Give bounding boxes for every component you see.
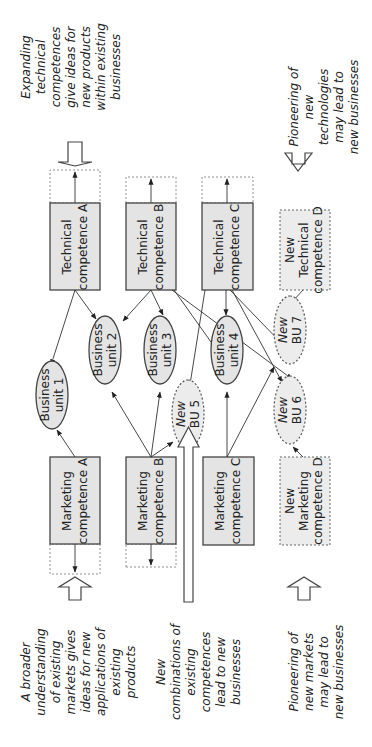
competence-business-diagram: Technical competence A Technical compete… bbox=[0, 0, 372, 747]
annotation-line: New bbox=[276, 397, 290, 423]
annotation-expanding-technical: Expanding technical competences give ide… bbox=[19, 23, 123, 111]
annotation-line: competence B bbox=[152, 458, 166, 544]
annotation-broader-understanding: A broader understanding of existing mark… bbox=[19, 626, 138, 716]
annotation-line: New bbox=[174, 401, 188, 427]
annotation-line: unit 3 bbox=[160, 333, 174, 368]
annotation-line: BU 7 bbox=[290, 316, 304, 344]
annotation-line: markets gives bbox=[64, 630, 78, 715]
new-technical-competence-d: New Technical competence D bbox=[280, 206, 330, 293]
marketing-competence-c: Marketing competence C bbox=[203, 457, 254, 545]
annotation-line: businesses bbox=[109, 34, 123, 100]
annotation-line: Pioneering of bbox=[287, 66, 301, 147]
annotation-line: new businesses bbox=[347, 60, 361, 155]
annotation-line: lead to new bbox=[214, 637, 228, 707]
annotation-line: give ideas for bbox=[64, 25, 78, 108]
annotation-line: New bbox=[276, 317, 290, 343]
annotation-line: Technical bbox=[297, 222, 311, 278]
annotation-line: applications of bbox=[94, 626, 108, 716]
annotation-line: competence D bbox=[311, 457, 325, 544]
annotation-line: Business bbox=[146, 324, 160, 377]
annotation-line: Technical bbox=[212, 219, 226, 275]
diagram-stage: Technical competence A Technical compete… bbox=[0, 0, 372, 747]
annotation-line: competence C bbox=[229, 458, 243, 545]
annotation-line: existing bbox=[109, 648, 123, 696]
annotation-line: ideas for new bbox=[79, 631, 93, 712]
business-unit-1: Business unit 1 bbox=[36, 361, 68, 429]
annotation-line: unit 1 bbox=[52, 378, 66, 413]
annotation-pioneering-markets: Pioneering of new markets may lead to ne… bbox=[287, 625, 346, 720]
annotation-line: Technical bbox=[136, 219, 150, 275]
broad-market-arrow bbox=[59, 577, 91, 600]
annotation-line: unit 4 bbox=[227, 333, 241, 368]
annotation-line: A broader bbox=[19, 641, 33, 702]
annotation-line: technical bbox=[34, 39, 48, 94]
annotation-line: Marketing bbox=[213, 471, 227, 531]
annotation-line: of existing bbox=[49, 640, 63, 703]
annotation-line: Marketing bbox=[136, 471, 150, 531]
business-unit-2: Business unit 2 bbox=[89, 316, 121, 384]
annotation-line: Marketing bbox=[297, 471, 311, 531]
technical-competence-a: Technical competence A bbox=[50, 170, 100, 290]
annotation-line: competence A bbox=[76, 203, 90, 290]
annotation-line: Marketing bbox=[60, 471, 74, 531]
annotation-line: BU 5 bbox=[188, 400, 202, 428]
annotation-line: unit 2 bbox=[105, 333, 119, 368]
annotation-line: new products bbox=[79, 26, 93, 107]
annotation-line: competence C bbox=[228, 204, 242, 291]
technical-competence-c: Technical competence C bbox=[202, 177, 253, 290]
annotation-line: Business bbox=[91, 324, 105, 377]
annotation-line: competence D bbox=[311, 206, 325, 293]
expand-tech-arrow bbox=[58, 142, 92, 166]
annotation-line: competences bbox=[199, 632, 213, 713]
annotation-line: Technical bbox=[60, 219, 74, 275]
annotation-line: Business bbox=[38, 369, 52, 422]
annotation-line: within existing bbox=[94, 23, 108, 111]
annotation-line: New bbox=[283, 488, 297, 514]
annotation-line: Pioneering of bbox=[287, 631, 301, 712]
annotation-line: competence B bbox=[152, 204, 166, 290]
annotation-line: Expanding bbox=[19, 35, 33, 99]
annotation-line: may lead to bbox=[332, 71, 346, 143]
annotation-line: new bbox=[302, 94, 316, 119]
annotation-line: new businesses bbox=[332, 625, 346, 720]
annotation-line: new markets bbox=[302, 633, 316, 711]
new-business-unit-7: New BU 7 bbox=[274, 296, 306, 364]
annotation-line: existing bbox=[184, 648, 198, 696]
annotation-pioneering-technologies: Pioneering of new technologies may lead … bbox=[287, 60, 361, 155]
annotation-line: competences bbox=[49, 27, 63, 108]
business-unit-3: Business unit 3 bbox=[144, 316, 176, 384]
annotation-line: Business bbox=[213, 324, 227, 377]
annotation-line: may lead to bbox=[317, 636, 331, 708]
annotation-line: combinations of bbox=[169, 622, 183, 720]
marketing-competence-a: Marketing competence A bbox=[50, 457, 100, 574]
marketing-competence-b: Marketing competence B bbox=[126, 457, 176, 567]
business-unit-4: Business unit 4 bbox=[211, 316, 243, 384]
new-marketing-competence-d: New Marketing competence D bbox=[280, 457, 330, 545]
new-business-unit-6: New BU 6 bbox=[274, 376, 306, 444]
annotation-line: New bbox=[154, 659, 168, 685]
pioneer-tech-arrow bbox=[285, 153, 312, 171]
annotation-line: technologies bbox=[317, 69, 331, 146]
combination-arrow bbox=[178, 427, 199, 602]
annotation-line: businesses bbox=[229, 639, 243, 705]
pioneer-market-arrow bbox=[288, 577, 320, 600]
annotation-line: BU 6 bbox=[290, 396, 304, 424]
annotation-line: understanding bbox=[34, 628, 48, 716]
annotation-line: New bbox=[283, 237, 297, 263]
annotation-new-combinations: New combinations of existing competences… bbox=[154, 622, 243, 720]
annotation-line: products bbox=[124, 646, 138, 700]
technical-competence-b: Technical competence B bbox=[126, 177, 176, 290]
annotation-line: competence A bbox=[76, 457, 90, 544]
